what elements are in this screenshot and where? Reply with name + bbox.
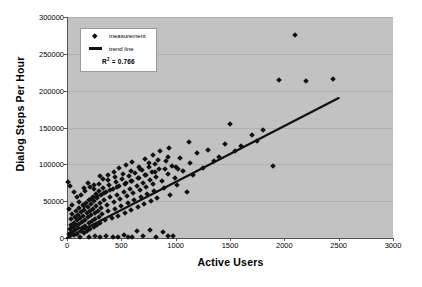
diamond-marker-icon: [81, 34, 109, 38]
x-tick-label: 2500: [330, 241, 347, 250]
x-tick-mark: [284, 238, 285, 241]
x-axis-title: Active Users: [67, 256, 394, 268]
x-tick-label: 500: [115, 241, 128, 250]
x-tick-mark: [393, 238, 394, 241]
x-tick-mark: [176, 238, 177, 241]
chart-legend: measurement trend line R2 = 0.766: [80, 28, 157, 72]
x-tick-mark: [230, 238, 231, 241]
x-tick-label: 3000: [385, 241, 402, 250]
x-tick-mark: [121, 238, 122, 241]
x-tick-label: 1500: [222, 241, 239, 250]
x-tick-mark: [339, 238, 340, 241]
legend-label-trend-line: trend line: [109, 46, 134, 52]
scatter-chart: 050000100000150000200000250000300000 050…: [0, 0, 422, 287]
x-tick-label: 0: [65, 241, 69, 250]
y-axis-title: Dialog Steps Per Hour: [14, 34, 26, 194]
x-tick-label: 2000: [276, 241, 293, 250]
legend-r-squared: R2 = 0.766: [81, 57, 156, 65]
line-marker-icon: [81, 47, 109, 50]
legend-item-trend-line: trend line: [81, 42, 156, 55]
legend-item-measurement: measurement: [81, 29, 156, 42]
x-tick-label: 1000: [167, 241, 184, 250]
legend-label-measurement: measurement: [109, 33, 146, 39]
r-squared-exponent: 2: [107, 57, 110, 62]
r-squared-value: = 0.766: [112, 58, 135, 65]
